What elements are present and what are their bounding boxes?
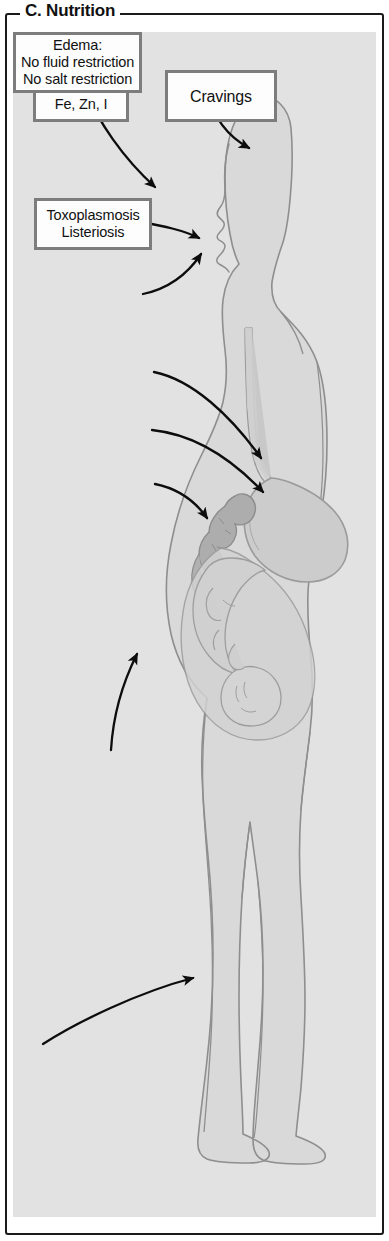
label-line: Listeriosis (62, 224, 125, 241)
nutrition-figure-page: C. Nutrition (0, 0, 389, 1241)
page-title: C. Nutrition (20, 0, 120, 22)
label-cravings: Cravings (165, 70, 277, 122)
arrow-weight (111, 654, 137, 750)
illustration-plate: Calories? Fe, Zn, I Cravings Toxoplasmos… (13, 32, 376, 1217)
arrow-vitamins (143, 254, 201, 294)
label-line: Edema: (53, 37, 102, 54)
label-line: Cravings (190, 88, 252, 105)
label-line: No salt restriction (23, 71, 132, 88)
label-line: Fe, Zn, I (55, 96, 108, 113)
label-line: Toxoplasmosis (46, 207, 139, 224)
arrow-edema (43, 978, 193, 1044)
label-line: No fluid restriction (21, 54, 134, 71)
label-toxoplasmosis: Toxoplasmosis Listeriosis (34, 198, 152, 250)
label-edema: Edema: No fluid restriction No salt rest… (13, 32, 142, 93)
